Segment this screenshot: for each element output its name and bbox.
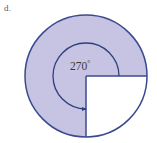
circle-sector-figure: d. 270°: [0, 0, 157, 143]
angle-label: 270°: [70, 59, 90, 73]
degree-symbol-icon: °: [87, 59, 90, 68]
unshaded-quadrant: [86, 76, 147, 137]
circle-diagram-svg: 270°: [0, 0, 157, 143]
angle-label-value: 270: [70, 60, 88, 72]
